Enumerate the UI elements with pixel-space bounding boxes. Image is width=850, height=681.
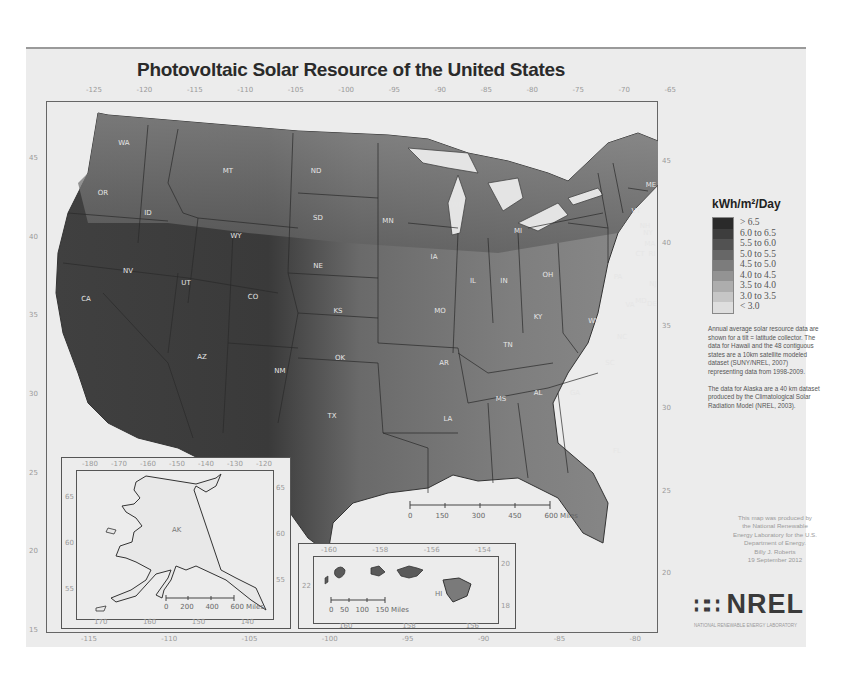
state-label-nj: NJ (649, 280, 656, 288)
top-longitude-ticks: -125 -120 -115 -110 -105 -100 -95 -90 -8… (86, 86, 676, 94)
state-label-vt: VT (631, 207, 641, 215)
state-label-or: OR (98, 189, 109, 197)
main-scale-labels: 0 150 300 450 600 Miles (408, 512, 578, 520)
state-label-il: IL (470, 277, 476, 285)
alaska-inset: -180 -170 -160 -150 -140 -130 -120 170 1… (61, 457, 291, 629)
state-label-ma: MA (645, 240, 656, 248)
legend-color-ramp (712, 217, 734, 314)
state-label-md: MD (635, 297, 646, 305)
state-label-nm: NM (274, 367, 285, 375)
state-label-ri: RI (649, 250, 656, 258)
state-label-nv: NV (123, 267, 133, 275)
main-scale-bar (410, 501, 550, 509)
state-label-la: LA (444, 415, 453, 423)
alaska-outline: AK (76, 470, 272, 618)
map-title: Photovoltaic Solar Resource of the Unite… (26, 59, 676, 81)
state-label-mi: MI (514, 227, 522, 235)
legend-swatch (713, 229, 733, 240)
state-label-mo: MO (434, 307, 446, 315)
map-credit: This map was produced by the National Re… (718, 514, 832, 564)
state-label-sd: SD (313, 214, 323, 222)
state-label-sc: SC (605, 359, 614, 367)
state-label-in: IN (500, 277, 507, 285)
left-latitude-ticks: 45 40 35 30 25 20 15 (29, 154, 38, 634)
state-label-nd: ND (311, 167, 322, 175)
data-notes: Annual average solar resource data are s… (708, 325, 820, 410)
legend-swatch (713, 271, 733, 282)
alaska-bottom-ticks: 170 160 150 140 (94, 618, 254, 626)
state-label-ca: CA (81, 295, 91, 303)
state-label-ga: GA (570, 389, 580, 397)
legend-swatch (713, 302, 733, 313)
state-label-pa: PA (614, 273, 623, 281)
state-label-tn: TN (502, 341, 513, 349)
state-label-ny: NY (643, 229, 653, 237)
state-label-ia: IA (431, 253, 438, 261)
state-label-ok: OK (335, 354, 346, 362)
legend-swatch (713, 292, 733, 303)
legend-swatch (713, 239, 733, 250)
state-label-ct: CT (635, 250, 645, 258)
hawaii-top-ticks: -160 -158 -156 -154 (321, 546, 491, 554)
nrel-logo: ∷∷ NREL (694, 589, 804, 620)
state-label-id: ID (144, 209, 151, 217)
alaska-left-ticks: 65 60 55 (65, 493, 74, 593)
state-label-nc: NC (617, 333, 627, 341)
state-label-wi: WI (452, 201, 461, 209)
right-latitude-ticks: 45 40 35 30 25 20 (662, 157, 671, 577)
state-label-me: ME (646, 181, 656, 189)
state-label-tx: TX (326, 412, 336, 420)
map-sheet: Photovoltaic Solar Resource of the Unite… (26, 47, 806, 647)
state-label-ne: NE (313, 262, 323, 270)
hawaii-left-ticks: 22 (302, 582, 311, 590)
state-label-az: AZ (197, 353, 207, 361)
note-paragraph-1: Annual average solar resource data are s… (708, 325, 820, 377)
hawaii-bottom-ticks: 160 158 156 (339, 622, 479, 630)
state-label-oh: OH (543, 271, 554, 279)
legend-labels: > 6.5 6.0 to 6.5 5.5 to 6.0 5.0 to 5.5 4… (740, 217, 776, 314)
state-label-de: DE (647, 300, 657, 308)
state-label-ky: KY (534, 313, 543, 321)
state-label-ut: UT (181, 279, 191, 287)
hawaii-scale-labels: 0 50 100 150 Miles (329, 606, 409, 614)
alaska-scale-labels: 0 200 400 600 Miles (164, 603, 264, 611)
legend-swatch (713, 260, 733, 271)
state-label-ms: MS (496, 395, 507, 403)
bottom-longitude-ticks: -115 -110 -105 -100 -95 -90 -85 -80 (81, 635, 641, 643)
legend-swatch (713, 218, 733, 229)
hawaii-label: HI (435, 590, 442, 598)
state-label-mn: MN (382, 217, 393, 225)
state-label-nh: NH (640, 222, 651, 230)
legend-swatch (713, 250, 733, 261)
alaska-top-ticks: -180 -170 -160 -150 -140 -130 -120 (82, 460, 272, 468)
state-label-ks: KS (333, 307, 343, 315)
state-label-wy: WY (230, 232, 242, 240)
state-label-va: VA (625, 301, 634, 309)
state-label-ar: AR (439, 359, 449, 367)
state-label-mt: MT (223, 167, 234, 175)
state-label-wv: WV (588, 317, 600, 325)
alaska-right-ticks: 65 60 55 (276, 484, 285, 584)
alaska-label: AK (172, 526, 182, 534)
legend-title: kWh/m²/Day (712, 197, 812, 211)
state-label-wa: WA (118, 139, 130, 147)
hawaii-right-ticks: 20 18 (501, 560, 510, 610)
nrel-logo-icon: ∷∷ (694, 593, 718, 618)
state-label-fl: FL (613, 447, 621, 455)
state-label-al: AL (534, 389, 543, 397)
state-label-co: CO (248, 293, 259, 301)
legend-swatch (713, 281, 733, 292)
nrel-logo-subtitle: NATIONAL RENEWABLE ENERGY LABORATORY (694, 623, 834, 628)
note-paragraph-2: The data for Alaska are a 40 km dataset … (708, 385, 820, 411)
hawaii-inset: -160 -158 -156 -154 22 20 18 HI 0 (298, 543, 516, 629)
legend: kWh/m²/Day > 6.5 6.0 to 6.5 5.5 to 6.0 5… (712, 197, 812, 314)
